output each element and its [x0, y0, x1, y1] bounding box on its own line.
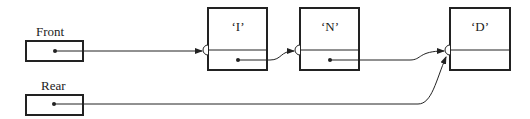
node-d-value: ‘D’	[450, 19, 510, 35]
node-n-value: ‘N’	[300, 19, 360, 35]
node-i-value: ‘I’	[208, 19, 268, 35]
rear-label: Rear	[41, 78, 66, 94]
node-i-anchor	[203, 45, 208, 55]
front-label: Front	[36, 24, 64, 40]
node-n-anchor	[295, 45, 300, 55]
node-n	[300, 8, 359, 70]
queue-diagram	[0, 0, 530, 119]
rear-arrow	[54, 57, 446, 104]
n-next-arrow	[330, 51, 444, 60]
node-i	[208, 8, 267, 70]
node-d	[450, 8, 510, 70]
node-d-anchor	[445, 45, 450, 55]
